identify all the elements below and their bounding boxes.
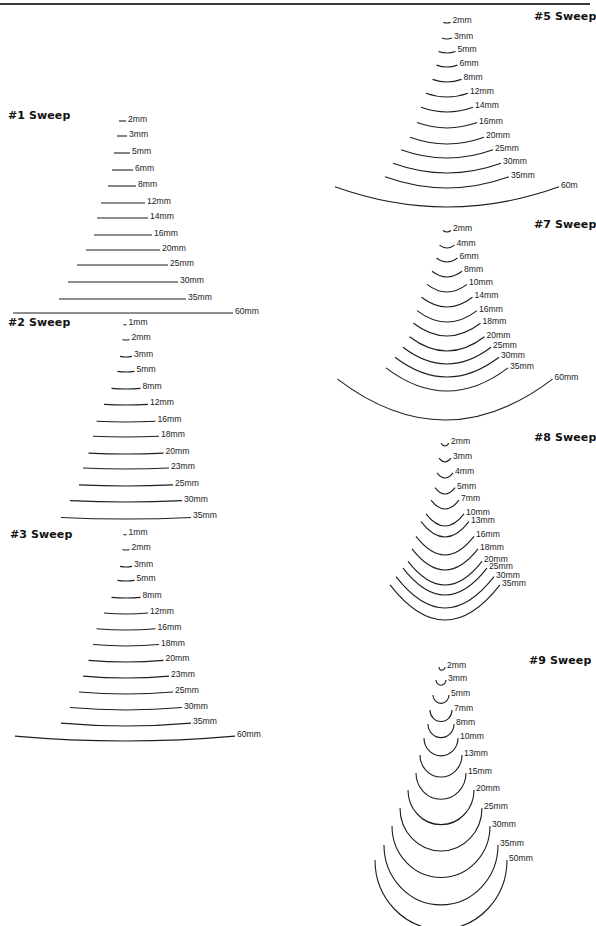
profile-size-label: 4mm (455, 466, 474, 476)
profile-curve (403, 347, 491, 364)
profile-curve (435, 488, 455, 494)
profile-curve (335, 187, 559, 207)
sweep-9-group: 2mm3mm5mm7mm8mm10mm13mm15mm20mm25mm30mm3… (375, 660, 533, 926)
profile-curve (79, 692, 173, 694)
profile-size-label: 8mm (464, 72, 483, 82)
profile-curve (437, 258, 458, 262)
profile-size-label: 13mm (464, 748, 488, 758)
profile-size-label: 23mm (171, 461, 195, 471)
profile-curve (385, 177, 509, 188)
profile-size-label: 7mm (461, 493, 480, 503)
profile-curve (442, 38, 452, 39)
profile-curve (118, 580, 135, 581)
profile-size-label: 3mm (454, 31, 473, 41)
profile-curve (97, 421, 156, 422)
profile-size-label: 60m (561, 180, 578, 190)
profile-curve (104, 613, 148, 614)
profile-size-label: 1mm (129, 317, 148, 327)
profile-size-label: 25mm (493, 340, 517, 350)
sweep-5-group: 2mm3mm5mm6mm8mm12mm14mm16mm20mm25mm30mm3… (335, 15, 578, 207)
profile-curve (403, 568, 487, 595)
profile-curve (426, 514, 464, 526)
profile-curve (433, 79, 462, 82)
profile-curve (97, 629, 156, 630)
profile-size-label: 15mm (468, 766, 492, 776)
profile-size-label: 35mm (193, 510, 217, 520)
profile-curve (384, 845, 498, 905)
profile-size-label: 5mm (451, 688, 470, 698)
profile-curve (15, 736, 235, 741)
profile-size-label: 25mm (484, 801, 508, 811)
profile-size-label: 14mm (475, 290, 499, 300)
profile-size-label: 8mm (143, 590, 162, 600)
profile-size-label: 16mm (479, 304, 503, 314)
profile-size-label: 25mm (170, 258, 194, 268)
profile-size-label: 2mm (447, 660, 466, 670)
profile-size-label: 16mm (158, 414, 182, 424)
profile-curve (426, 93, 468, 97)
profile-size-label: 18mm (161, 429, 185, 439)
profile-size-label: 30mm (180, 275, 204, 285)
profile-curve (410, 137, 484, 144)
profile-curve (401, 150, 493, 158)
profile-curve (120, 356, 132, 357)
profile-size-label: 23mm (171, 669, 195, 679)
profile-curve (112, 597, 141, 598)
profile-curve (428, 724, 454, 738)
profile-size-label: 1mm (129, 527, 148, 537)
profile-curve (70, 708, 182, 710)
profile-size-label: 5mm (458, 44, 477, 54)
profile-curve (120, 566, 132, 567)
profile-curve (386, 368, 508, 391)
profile-curve (437, 473, 453, 478)
profile-curve (432, 271, 462, 277)
profile-curve (430, 710, 452, 722)
profile-curve (422, 297, 473, 307)
profile-curve (437, 65, 458, 67)
profile-size-label: 10mm (469, 277, 493, 287)
profile-size-label: 3mm (134, 349, 153, 359)
profile-curve (443, 230, 451, 232)
profile-curve (83, 676, 169, 678)
sweep-7-group: 2mm4mm6mm8mm10mm14mm16mm18mm20mm25mm30mm… (338, 223, 579, 420)
profile-curve (410, 337, 485, 351)
profile-size-label: 14mm (150, 211, 174, 221)
profile-size-label: 16mm (158, 622, 182, 632)
sweep-2-group: 1mm2mm3mm5mm8mm12mm16mm18mm20mm23mm25mm3… (61, 317, 217, 520)
profile-curve (408, 561, 482, 585)
profile-curve (61, 517, 191, 519)
profile-curve (118, 371, 135, 372)
profile-curve (417, 311, 477, 322)
profile-size-label: 20mm (162, 243, 186, 253)
profile-size-label: 25mm (175, 478, 199, 488)
profile-curve (424, 738, 458, 756)
profile-size-label: 60mm (235, 306, 259, 316)
profile-curve (83, 468, 169, 469)
profile-size-label: 5mm (137, 573, 156, 583)
profile-size-label: 18mm (161, 638, 185, 648)
profile-curve (104, 404, 148, 405)
profile-size-label: 8mm (138, 179, 157, 189)
profile-size-label: 35mm (188, 292, 212, 302)
profile-curve (61, 723, 191, 726)
profile-curve (93, 436, 159, 437)
profile-size-label: 13mm (471, 515, 495, 525)
profile-size-label: 12mm (150, 606, 174, 616)
profile-size-label: 3mm (134, 559, 153, 569)
profile-size-label: 35mm (193, 716, 217, 726)
profile-size-label: 16mm (476, 529, 500, 539)
profile-curve (390, 585, 500, 620)
profile-size-label: 16mm (479, 116, 503, 126)
profile-curve (89, 453, 164, 454)
profile-size-label: 20mm (166, 446, 190, 456)
profile-size-label: 12mm (470, 86, 494, 96)
profile-curve (408, 790, 474, 825)
profile-size-label: 18mm (483, 316, 507, 326)
profile-curve (412, 549, 478, 570)
profile-curve (441, 443, 449, 446)
profile-curve (395, 357, 499, 377)
profile-size-label: 5mm (132, 146, 151, 156)
profile-size-label: 30mm (503, 156, 527, 166)
profile-curve (414, 323, 481, 336)
